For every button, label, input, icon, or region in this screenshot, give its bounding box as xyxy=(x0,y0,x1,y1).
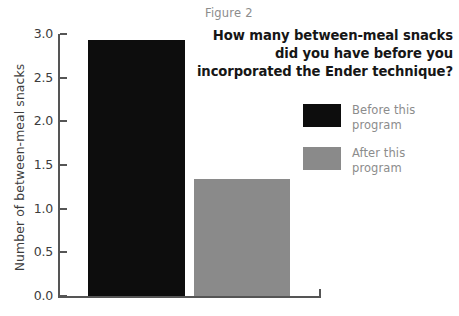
y-axis-line xyxy=(58,34,60,298)
legend-swatch-before xyxy=(303,104,341,127)
figure-container: Figure 2 How many between-meal snacks di… xyxy=(0,0,459,316)
legend-label-after: After this program xyxy=(352,146,405,175)
chart-title-line-1: How many between-meal snacks xyxy=(187,27,453,45)
y-tick-mark xyxy=(60,295,67,297)
y-tick-mark xyxy=(60,164,67,166)
chart-title-line-3: incorporated the Ender technique? xyxy=(187,63,453,81)
chart-title: How many between-meal snacks did you hav… xyxy=(187,27,453,81)
y-tick-mark xyxy=(60,77,67,79)
bar-after xyxy=(194,179,290,296)
y-tick-label: 2.5 xyxy=(3,70,53,85)
chart-legend: Before this program After this program xyxy=(303,103,459,190)
y-tick-mark xyxy=(60,208,67,210)
legend-label-before: Before this program xyxy=(352,103,415,132)
bar-before xyxy=(88,40,185,296)
y-tick-label: 1.0 xyxy=(3,201,53,216)
y-tick-label: 0.5 xyxy=(3,244,53,259)
y-tick-label: 2.0 xyxy=(3,113,53,128)
y-tick-mark xyxy=(60,251,67,253)
legend-label-before-line-1: Before this xyxy=(352,103,415,118)
y-tick-label: 1.5 xyxy=(3,157,53,172)
chart-title-line-2: did you have before you xyxy=(187,45,453,63)
y-tick-label: 0.0 xyxy=(3,288,53,303)
legend-item-after: After this program xyxy=(303,146,459,175)
x-axis-end-tick xyxy=(319,289,321,298)
legend-item-before: Before this program xyxy=(303,103,459,132)
legend-label-after-line-1: After this xyxy=(352,146,405,161)
y-tick-mark xyxy=(60,33,67,35)
legend-label-before-line-2: program xyxy=(352,118,415,133)
y-tick-label: 3.0 xyxy=(3,26,53,41)
y-axis-title: Number of between-meal snacks xyxy=(12,48,27,288)
y-tick-mark xyxy=(60,120,67,122)
x-axis-line xyxy=(58,296,321,298)
legend-label-after-line-2: program xyxy=(352,161,405,176)
legend-swatch-after xyxy=(303,147,341,170)
figure-label: Figure 2 xyxy=(205,6,253,20)
